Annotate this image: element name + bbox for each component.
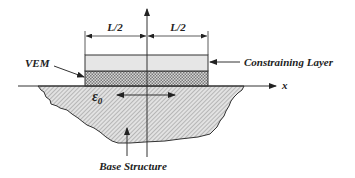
label-constraining-layer: Constraining Layer [244, 56, 334, 68]
label-strain-subscript: 0 [98, 96, 103, 106]
label-vem: VEM [25, 57, 51, 69]
label-half-length-right: L/2 [169, 21, 186, 33]
label-base-structure: Base Structure [98, 160, 167, 172]
label-half-length-left: L/2 [106, 21, 123, 33]
vem-pointer-arrow [54, 66, 84, 77]
label-x-axis: x [281, 79, 288, 91]
diagram-canvas: L/2 L/2 Constraining Layer VEM x ε0 Base… [0, 0, 355, 178]
